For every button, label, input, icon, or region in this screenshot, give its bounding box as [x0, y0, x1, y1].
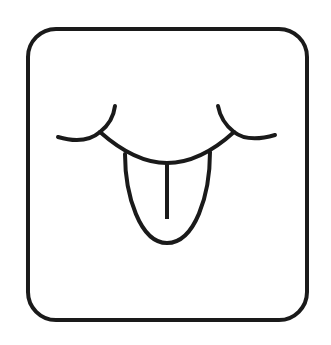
tongue-face-icon	[0, 0, 331, 345]
left-eye-arc-icon	[58, 132, 100, 140]
left-eye-lash-icon	[100, 106, 115, 132]
tongue-face-icon-container: Closed-eyes face sticking out tongue ins…	[0, 0, 331, 345]
right-eye-arc-icon	[234, 132, 275, 138]
mouth-smile-icon	[100, 132, 234, 163]
right-eye-lash-icon	[218, 106, 234, 132]
